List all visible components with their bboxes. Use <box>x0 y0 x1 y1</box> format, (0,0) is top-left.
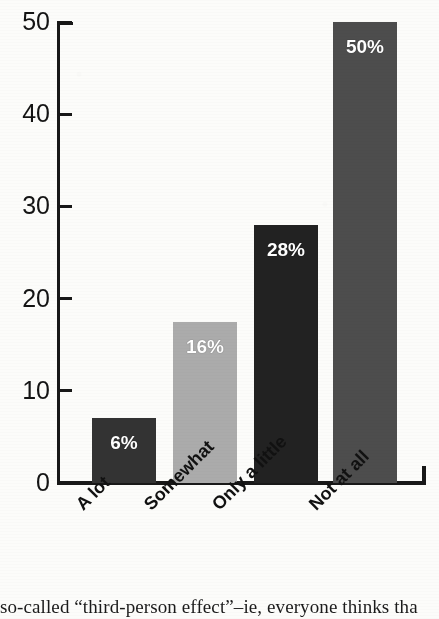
bar-value-label-3: 50% <box>333 36 397 58</box>
y-tick-10 <box>57 389 72 392</box>
bar-value-label-0: 6% <box>92 432 156 454</box>
bar-not-at-all[interactable]: 50% <box>333 22 397 483</box>
y-tick-40 <box>57 113 72 116</box>
y-tick-label-0: 0 <box>6 470 50 495</box>
y-tick-30 <box>57 205 72 208</box>
y-tick-label-50: 50 <box>6 9 50 34</box>
x-axis-right-cap <box>422 466 426 485</box>
y-tick-0 <box>57 482 72 485</box>
bar-value-label-1: 16% <box>173 336 237 358</box>
figure-canvas: 01020304050 6%16%28%50% A lotSomewhatOnl… <box>0 0 439 619</box>
y-tick-label-40: 40 <box>6 101 50 126</box>
y-axis-line <box>57 22 60 484</box>
y-tick-20 <box>57 297 72 300</box>
bar-value-label-2: 28% <box>254 239 318 261</box>
y-tick-50 <box>57 21 72 24</box>
y-tick-label-10: 10 <box>6 378 50 403</box>
bar-chart: 01020304050 6%16%28%50% A lotSomewhatOnl… <box>0 0 439 619</box>
y-tick-label-20: 20 <box>6 286 50 311</box>
y-tick-label-30: 30 <box>6 193 50 218</box>
figure-caption: so-called “third-person effect”–ie, ever… <box>0 596 439 618</box>
